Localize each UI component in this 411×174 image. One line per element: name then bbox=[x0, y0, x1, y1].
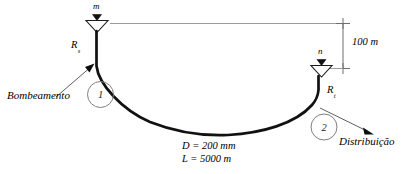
level-marker-m-icon bbox=[93, 15, 102, 21]
elevation-label: 100 m bbox=[352, 37, 378, 48]
source-level-label: m bbox=[93, 2, 100, 11]
source-reservoir-label: Rs bbox=[71, 40, 80, 53]
dimension-tick-top-icon bbox=[336, 18, 350, 29]
target-reservoir-label: Rt bbox=[327, 85, 335, 98]
pipe-diameter-label: D = 200 mm bbox=[182, 141, 235, 152]
pipe-length-label: L = 5000 m bbox=[182, 154, 231, 165]
node-1-label: 1 bbox=[94, 90, 107, 101]
pumping-label: Bombeamento bbox=[7, 90, 70, 101]
target-reservoir-subscript: t bbox=[334, 92, 336, 99]
source-reservoir-subscript: s bbox=[78, 47, 81, 54]
level-marker-n-icon bbox=[317, 60, 326, 66]
target-reservoir-symbol: R bbox=[327, 84, 333, 95]
node-2-label: 2 bbox=[318, 123, 331, 134]
pipeline-path bbox=[97, 31, 319, 135]
distribution-label: Distribuição bbox=[339, 136, 395, 147]
discharge-level-label: n bbox=[318, 47, 323, 56]
hydraulic-system-diagram: m n Rs Rt Bombeamento Distribuição 100 m… bbox=[0, 0, 411, 174]
source-reservoir-symbol: R bbox=[71, 39, 77, 50]
water-surface-triangle-right-icon bbox=[311, 66, 332, 78]
